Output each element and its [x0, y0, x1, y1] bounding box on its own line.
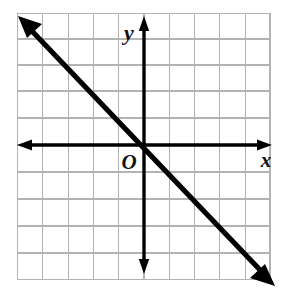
x-axis-label: x: [260, 148, 272, 172]
figure-page: 48.: [0, 0, 287, 293]
origin-label: O: [121, 150, 136, 174]
coordinate-plane-graph: y x O: [0, 0, 287, 293]
